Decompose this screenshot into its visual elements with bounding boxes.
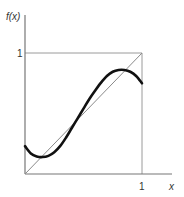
y-axis-label: f(x) (6, 11, 20, 22)
chart: f(x) 1 1 x (0, 0, 184, 197)
x-tick-label-1: 1 (139, 181, 145, 192)
x-axis-label: x (168, 181, 175, 192)
y-tick-label-1: 1 (17, 48, 23, 59)
